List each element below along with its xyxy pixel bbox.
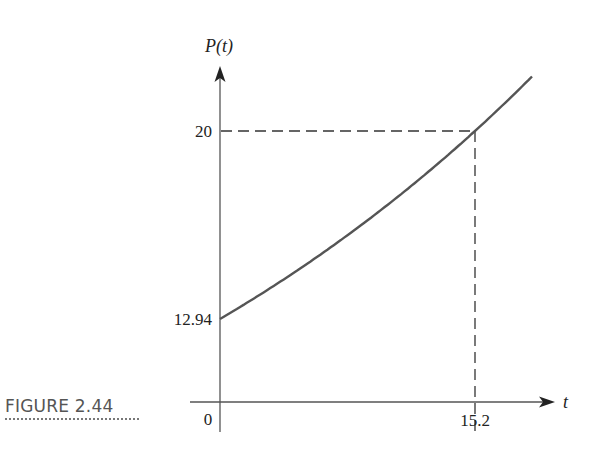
growth-curve [220, 77, 532, 320]
x-tick-15-2: 15.2 [460, 411, 490, 430]
figure-caption: FIGURE 2.44 [5, 396, 139, 420]
y-tick-12-94: 12.94 [174, 310, 213, 329]
x-axis-label: t [563, 392, 569, 412]
origin-label: 0 [204, 410, 213, 429]
y-axis-label: P(t) [204, 36, 233, 57]
y-tick-20: 20 [195, 122, 212, 141]
